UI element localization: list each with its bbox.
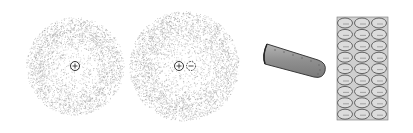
atom-pair-diagram — [125, 0, 250, 133]
electron-cloud-2 — [125, 0, 250, 133]
lattice-ellipse — [372, 75, 387, 85]
plus-circle-icon — [71, 62, 80, 71]
minus-dashed-circle-icon — [187, 62, 196, 71]
lattice-ellipse — [372, 52, 387, 62]
atom-single-diagram — [0, 0, 130, 133]
tube-diagram — [255, 30, 335, 90]
lattice-ellipse — [372, 41, 387, 51]
lattice-ellipse — [355, 64, 370, 74]
lattice-ellipse — [338, 64, 353, 74]
lattice-ellipse — [338, 75, 353, 85]
plus-circle-icon — [175, 62, 184, 71]
lattice-ellipse — [355, 18, 370, 28]
lattice-ellipse — [372, 29, 387, 39]
lattice-ellipse — [355, 29, 370, 39]
lattice-ellipse — [338, 98, 353, 108]
lattice-ellipse — [372, 86, 387, 96]
lattice-ellipse — [338, 18, 353, 28]
lattice-ellipse — [355, 109, 370, 119]
lattice-ellipse — [355, 41, 370, 51]
lattice-ellipse — [338, 41, 353, 51]
lattice-ellipse — [355, 98, 370, 108]
lattice-ellipse — [372, 98, 387, 108]
lattice-grid — [334, 14, 392, 124]
lattice-ellipse — [372, 64, 387, 74]
tube-icon — [255, 30, 335, 90]
lattice-ellipse — [372, 18, 387, 28]
lattice-diagram — [334, 14, 392, 124]
electron-cloud-1 — [0, 0, 130, 133]
lattice-ellipse — [355, 52, 370, 62]
lattice-ellipse — [338, 52, 353, 62]
lattice-ellipse — [372, 109, 387, 119]
lattice-ellipse — [355, 75, 370, 85]
lattice-ellipse — [338, 86, 353, 96]
lattice-ellipse — [338, 109, 353, 119]
lattice-ellipse — [355, 86, 370, 96]
lattice-ellipse — [338, 29, 353, 39]
